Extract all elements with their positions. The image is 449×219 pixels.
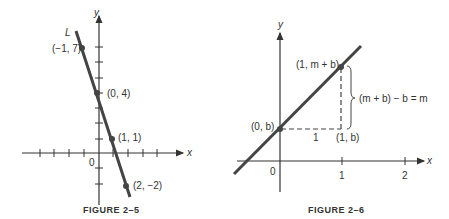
figure-2-6: y x 0 1 2 (0, b) (1, m + b) (1, b) 1 (m … (234, 19, 433, 215)
point-label: (0, b) (251, 121, 274, 132)
point-label: (2, −2) (133, 180, 162, 191)
axis-y-label: y (277, 19, 284, 30)
point-label: (0, 4) (107, 88, 130, 99)
origin-label: 0 (89, 157, 95, 168)
axis-x-label: x (186, 147, 193, 158)
point-label: (1, b) (336, 132, 359, 143)
line-L-label: L (65, 27, 71, 38)
axis-x-label: x (426, 155, 433, 166)
rise-label: (m + b) − b = m (359, 93, 428, 104)
figure-caption: FIGURE 2–6 (308, 205, 365, 215)
origin-label: 0 (270, 166, 276, 177)
run-label: 1 (313, 132, 319, 143)
line-L (76, 31, 130, 197)
figure-2-5: y x L 0 (−1, 7) (0, 4) (1, 1) (2, −2) FI… (22, 7, 193, 215)
point-label: (−1, 7) (52, 43, 81, 54)
x-tick-label: 2 (402, 170, 408, 181)
diagram-canvas: y x L 0 (−1, 7) (0, 4) (1, 1) (2, −2) FI… (0, 0, 449, 219)
x-tick-label: 1 (339, 170, 345, 181)
point-label: (1, 1) (118, 132, 141, 143)
axis-y-label: y (93, 7, 100, 18)
figure-caption: FIGURE 2–5 (83, 205, 140, 215)
point-1-1 (109, 136, 115, 142)
point-0-4 (94, 90, 100, 96)
point-label: (1, m + b) (296, 59, 339, 70)
point-0-b (277, 126, 283, 132)
brace-icon (347, 66, 355, 129)
point-2-neg2 (123, 183, 129, 189)
